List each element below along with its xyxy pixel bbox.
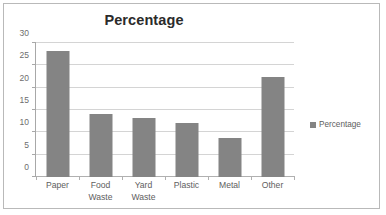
x-axis-label-line: Waste xyxy=(78,192,124,204)
bar-slot xyxy=(36,43,79,177)
x-axis-label-line: Yard xyxy=(121,180,167,192)
y-axis-tick-label: 20 xyxy=(20,73,29,83)
x-axis-label-line: Waste xyxy=(121,192,167,204)
bar[interactable] xyxy=(218,138,241,177)
x-axis-label: YardWaste xyxy=(121,180,167,203)
bar[interactable] xyxy=(46,51,69,177)
chart-legend: Percentage xyxy=(310,120,361,129)
chart-frame: Percentage 051015202530 PaperFoodWasteYa… xyxy=(3,3,380,209)
x-axis-labels: PaperFoodWasteYardWastePlasticMetalOther xyxy=(36,180,294,210)
y-axis-tick-label: 30 xyxy=(20,28,29,38)
x-axis-label: FoodWaste xyxy=(78,180,124,203)
plot-area: 051015202530 xyxy=(36,43,294,177)
bar[interactable] xyxy=(89,114,112,177)
bar-slot xyxy=(165,43,208,177)
chart-canvas: Percentage 051015202530 PaperFoodWasteYa… xyxy=(4,4,379,208)
x-axis-label-line: Food xyxy=(78,180,124,192)
x-axis-label-line: Metal xyxy=(207,180,253,192)
chart-title: Percentage xyxy=(4,12,284,28)
x-axis-label-line: Other xyxy=(250,180,296,192)
bar-slot xyxy=(122,43,165,177)
y-axis-tick-label: 5 xyxy=(24,140,29,150)
bar[interactable] xyxy=(175,123,198,177)
y-axis-tick-label: 25 xyxy=(20,50,29,60)
y-axis-tick-label: 0 xyxy=(24,162,29,172)
bar-slot xyxy=(79,43,122,177)
bar-slot xyxy=(208,43,251,177)
y-axis-tick-label: 15 xyxy=(20,95,29,105)
x-axis-label: Paper xyxy=(35,180,81,192)
x-axis-label-line: Plastic xyxy=(164,180,210,192)
x-axis-label: Plastic xyxy=(164,180,210,192)
bar[interactable] xyxy=(261,77,284,178)
x-axis-tick xyxy=(294,176,295,180)
legend-swatch-icon xyxy=(310,122,316,128)
bars-layer xyxy=(36,43,294,177)
bar-slot xyxy=(251,43,294,177)
legend-label: Percentage xyxy=(319,120,361,129)
y-axis-tick-label: 10 xyxy=(20,117,29,127)
x-axis-label: Metal xyxy=(207,180,253,192)
bar[interactable] xyxy=(132,118,155,177)
x-axis-label-line: Paper xyxy=(35,180,81,192)
x-axis-label: Other xyxy=(250,180,296,192)
